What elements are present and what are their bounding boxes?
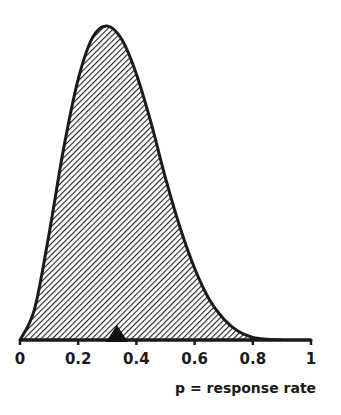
x-ticks: 00.20.40.60.81 (15, 340, 316, 368)
x-axis-label: p = response rate (175, 380, 316, 396)
x-tick-label: 1 (306, 350, 316, 368)
x-tick-label: 0 (15, 350, 25, 368)
x-tick-label: 0.8 (240, 350, 267, 368)
x-tick-label: 0.6 (181, 350, 208, 368)
density-chart: 00.20.40.60.81 p = response rate (0, 0, 341, 415)
x-tick-label: 0.2 (65, 350, 92, 368)
density-area (20, 26, 311, 340)
x-tick-label: 0.4 (123, 350, 150, 368)
